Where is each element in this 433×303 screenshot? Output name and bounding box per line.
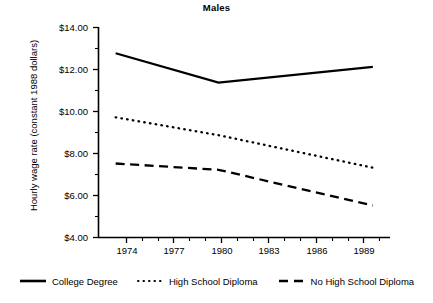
legend-swatch-solid-icon bbox=[19, 275, 47, 287]
x-tick-label-1986: 1986 bbox=[297, 245, 337, 256]
x-tick-label-1974: 1974 bbox=[107, 245, 147, 256]
y-tick-label-4: $4.00 bbox=[38, 232, 88, 243]
series-line-college-degree bbox=[116, 53, 373, 82]
legend-item-high-school-diploma: High School Diploma bbox=[136, 275, 258, 287]
legend-label-no-high-school-diploma: No High School Diploma bbox=[311, 276, 415, 287]
series-line-high-school-diploma bbox=[116, 117, 373, 167]
x-major-ticks bbox=[127, 238, 364, 244]
series-layer bbox=[116, 53, 373, 205]
legend-swatch-dotted-icon bbox=[136, 275, 164, 287]
chart-legend: College Degree High School Diploma No Hi… bbox=[0, 270, 433, 292]
y-tick-label-8: $8.00 bbox=[38, 148, 88, 159]
legend-swatch-dashed-icon bbox=[278, 275, 306, 287]
legend-label-high-school-diploma: High School Diploma bbox=[169, 276, 258, 287]
y-tick-label-14: $14.00 bbox=[38, 22, 88, 33]
x-tick-label-1977: 1977 bbox=[154, 245, 194, 256]
x-tick-label-1989: 1989 bbox=[344, 245, 384, 256]
x-tick-label-1983: 1983 bbox=[249, 245, 289, 256]
y-tick-label-12: $12.00 bbox=[38, 64, 88, 75]
legend-label-college-degree: College Degree bbox=[52, 276, 118, 287]
y-tick-label-10: $10.00 bbox=[38, 106, 88, 117]
series-line-no-high-school-diploma bbox=[116, 164, 373, 206]
y-tick-label-6: $6.00 bbox=[38, 190, 88, 201]
legend-item-no-high-school-diploma: No High School Diploma bbox=[278, 275, 415, 287]
x-tick-label-1980: 1980 bbox=[202, 245, 242, 256]
legend-item-college-degree: College Degree bbox=[19, 275, 118, 287]
chart-figure: Males Hourly wage rate (constant 1988 do… bbox=[0, 0, 433, 303]
